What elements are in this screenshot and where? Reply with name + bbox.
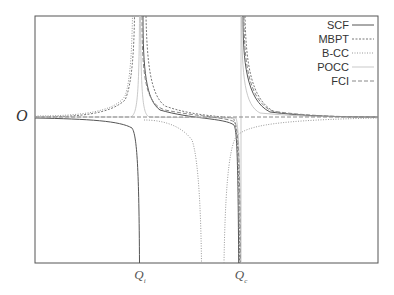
legend: SCF MBPT B-CC POCC FCI — [317, 18, 374, 88]
legend-item-pocc: POCC — [317, 60, 374, 74]
legend-item-scf: SCF — [317, 18, 374, 32]
x-tick-qc: Qc — [235, 267, 248, 285]
legend-item-fci: FCI — [317, 74, 374, 88]
legend-item-bcc: B-CC — [317, 46, 374, 60]
legend-item-mbpt: MBPT — [317, 32, 374, 46]
y-origin-label: O — [16, 107, 28, 125]
x-tick-qi: Qi — [134, 267, 145, 285]
